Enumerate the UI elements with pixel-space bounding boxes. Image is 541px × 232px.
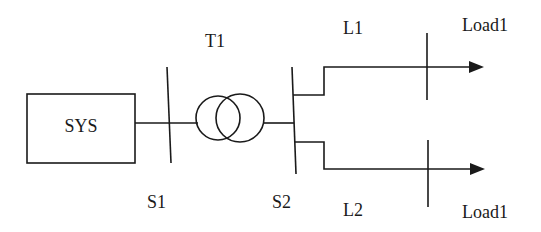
bus-s2-label: S2: [272, 192, 291, 212]
transformer-label: T1: [205, 31, 225, 51]
single-line-diagram: SYS T1 L1 Load1 S1 S2 L2 Load1: [0, 0, 541, 232]
load-arrow-2-icon: [470, 163, 485, 175]
source-label: SYS: [64, 116, 97, 136]
feeder-l2: [295, 142, 470, 169]
load-arrow-1-icon: [469, 61, 484, 73]
load-2-label: Load1: [462, 202, 508, 222]
line-l2-label: L2: [343, 200, 363, 220]
bus-s2: [292, 67, 296, 174]
transformer-winding-primary-icon: [196, 96, 240, 140]
bus-s1-label: S1: [147, 192, 166, 212]
line-l1-label: L1: [343, 18, 363, 38]
bus-s1: [167, 67, 171, 163]
load-1-label: Load1: [462, 15, 508, 35]
feeder-l1: [293, 67, 470, 95]
